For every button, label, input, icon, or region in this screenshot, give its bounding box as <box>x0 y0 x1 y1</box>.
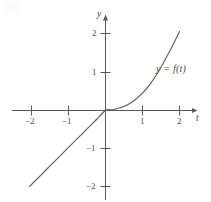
y-tick-label-neg2: −2 <box>86 182 96 191</box>
y-tick-label-pos2: 2 <box>92 29 97 38</box>
x-tick-label-neg2: −2 <box>25 117 35 126</box>
function-curve <box>30 32 180 187</box>
figure-container: y t −2 −1 1 2 2 1 −1 −2 y = f(t) <box>0 0 211 202</box>
y-tick-label-pos1: 1 <box>92 68 97 77</box>
curve-equation-label: y = f(t) <box>156 64 186 74</box>
plot-canvas <box>0 0 211 202</box>
y-axis-label: y <box>97 10 101 20</box>
x-tick-label-neg1: −1 <box>62 117 72 126</box>
x-tick-label-pos2: 2 <box>177 117 182 126</box>
x-tick-label-pos1: 1 <box>140 117 145 126</box>
y-tick-label-neg1: −1 <box>86 144 96 153</box>
x-axis-label: t <box>196 114 199 124</box>
